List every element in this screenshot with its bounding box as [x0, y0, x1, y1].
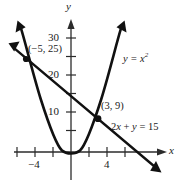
y-axis-label: y	[66, 1, 71, 12]
point-label-minus5-25: (−5, 25)	[28, 44, 62, 55]
point-label-3-9: (3, 9)	[101, 101, 124, 112]
x-tick-label-minus4: −4	[28, 159, 40, 170]
graph-figure: y x 30 20 10 −4 4 (−5, 25) (3, 9) y = x2…	[0, 0, 179, 184]
parabola-equation-exponent: 2	[145, 51, 149, 59]
point-marker-3-9	[95, 115, 102, 122]
parabola-equation-lead: y = x	[123, 53, 145, 64]
x-axis-label: x	[169, 145, 174, 156]
x-tick-label-4: 4	[104, 159, 110, 170]
point-marker-minus5-25	[23, 56, 29, 62]
y-tick-label-10: 10	[48, 106, 59, 117]
line-equation-plus: +	[121, 121, 132, 132]
x-axis	[14, 147, 167, 157]
graph-canvas	[0, 0, 179, 184]
line-equation-label: 2x + y = 15	[111, 122, 158, 133]
y-tick-label-20: 20	[48, 69, 59, 80]
line-equation-rhs: = 15	[137, 121, 159, 132]
parabola-equation-label: y = x2	[123, 52, 148, 64]
y-tick-label-30: 30	[48, 32, 59, 43]
